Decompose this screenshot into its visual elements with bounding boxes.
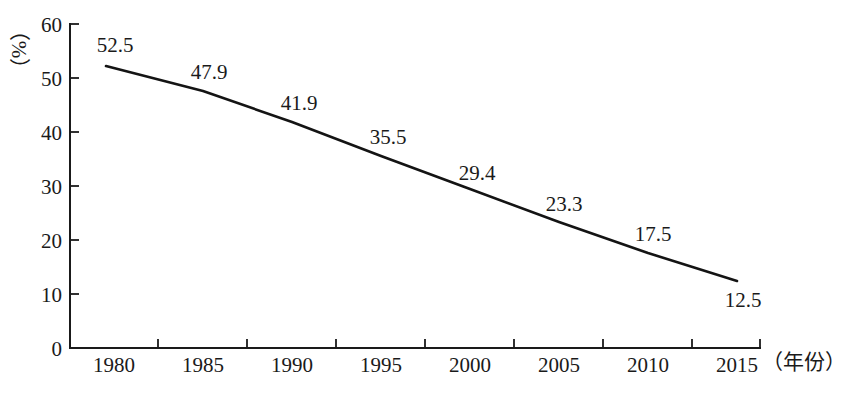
point-label-1985: 47.9 <box>191 60 228 84</box>
y-tick-label-10: 10 <box>41 283 62 307</box>
x-tick-label-2015: 2015 <box>716 353 758 377</box>
x-tick-label-1995: 1995 <box>360 353 402 377</box>
x-tick-label-1990: 1990 <box>271 353 313 377</box>
y-tick-label-60: 60 <box>41 13 62 37</box>
y-tick-label-30: 30 <box>41 175 62 199</box>
point-label-2000: 29.4 <box>459 161 496 185</box>
point-label-1980: 52.5 <box>97 33 134 57</box>
y-tick-label-40: 40 <box>41 121 62 145</box>
x-tick-label-2005: 2005 <box>538 353 580 377</box>
y-tick-label-0: 0 <box>52 337 63 361</box>
chart-canvas: 60 50 40 30 20 10 0 1980 1985 1990 1995 … <box>0 0 850 404</box>
y-tick-label-50: 50 <box>41 67 62 91</box>
x-tick-label-2010: 2010 <box>627 353 669 377</box>
y-tick-label-20: 20 <box>41 229 62 253</box>
x-tick-label-1985: 1985 <box>182 353 224 377</box>
point-label-2015: 12.5 <box>725 288 762 312</box>
x-tick-label-2000: 2000 <box>449 353 491 377</box>
y-axis-unit-text: （%） <box>9 19 30 79</box>
point-label-1990: 41.9 <box>281 91 318 115</box>
point-label-1995: 35.5 <box>370 125 407 149</box>
point-label-2010: 17.5 <box>635 222 672 246</box>
line-chart-figure: 60 50 40 30 20 10 0 1980 1985 1990 1995 … <box>0 0 850 404</box>
x-tick-label-1980: 1980 <box>93 353 135 377</box>
y-axis-unit-label: （%） <box>2 14 36 84</box>
point-label-2005: 23.3 <box>546 192 583 216</box>
x-axis-unit-label: （年份） <box>762 352 846 373</box>
data-series-line <box>106 66 737 281</box>
